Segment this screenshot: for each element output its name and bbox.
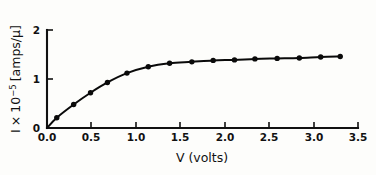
y-axis-title-symbol: I bbox=[8, 129, 23, 133]
x-tick-label-2-5: 2.5 bbox=[260, 131, 279, 143]
x-axis-title-units: (volts) bbox=[188, 150, 228, 165]
x-tick-label-1-5: 1.5 bbox=[171, 131, 190, 143]
x-tick-label-0-5: 0.5 bbox=[82, 131, 101, 143]
data-point bbox=[318, 54, 323, 59]
iv-curve-chart: 2 1 0 0.0 0.5 1.0 1.5 2.0 2.5 3.0 3.5 V(… bbox=[0, 0, 376, 175]
data-point bbox=[189, 59, 194, 64]
y-axis-title: I×10−5[amps/μ] bbox=[8, 25, 23, 133]
y-tick-label-2: 2 bbox=[33, 24, 40, 36]
data-point bbox=[71, 102, 76, 107]
data-point bbox=[146, 64, 151, 69]
y-tick-label-1: 1 bbox=[33, 73, 40, 85]
data-point bbox=[232, 57, 237, 62]
y-axis-title-exponent: −5 bbox=[8, 84, 18, 97]
x-tick-label-1-0: 1.0 bbox=[127, 131, 146, 143]
data-point bbox=[124, 70, 129, 75]
series-markers-photocurrent bbox=[54, 54, 343, 121]
y-axis-title-times: × bbox=[8, 116, 23, 126]
data-point bbox=[167, 61, 172, 66]
data-point bbox=[338, 54, 343, 59]
data-point bbox=[210, 58, 215, 63]
y-axis-title-units: [amps/μ] bbox=[8, 25, 23, 81]
x-tick-label-0-0: 0.0 bbox=[38, 131, 57, 143]
data-point bbox=[252, 56, 257, 61]
data-point bbox=[274, 56, 279, 61]
svg-text:I×10−5[amps/μ]: I×10−5[amps/μ] bbox=[8, 25, 23, 133]
x-axis-title-symbol: V bbox=[176, 150, 185, 165]
y-axis-title-base: 10 bbox=[8, 97, 23, 113]
svg-text:V(volts): V(volts) bbox=[176, 150, 228, 165]
x-tick-label-3-0: 3.0 bbox=[305, 131, 324, 143]
data-point bbox=[88, 90, 93, 95]
data-point bbox=[297, 55, 302, 60]
x-tick-label-2-0: 2.0 bbox=[216, 131, 235, 143]
data-point bbox=[105, 80, 110, 85]
x-axis-title: V(volts) bbox=[176, 150, 228, 165]
data-point bbox=[54, 115, 59, 120]
chart-figure: 2 1 0 0.0 0.5 1.0 1.5 2.0 2.5 3.0 3.5 V(… bbox=[0, 0, 376, 175]
x-tick-label-3-5: 3.5 bbox=[349, 131, 368, 143]
